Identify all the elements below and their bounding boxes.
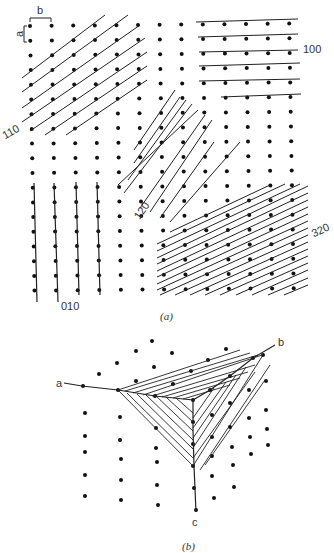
lattice-point	[73, 141, 77, 145]
lattice-point	[116, 141, 120, 145]
lattice-point	[134, 379, 138, 383]
lattice-point	[223, 66, 227, 70]
plane-label-110: 110	[0, 122, 21, 141]
lattice-point	[180, 67, 184, 71]
lattice-point	[210, 474, 214, 478]
lattice-point	[30, 156, 34, 160]
lattice-point	[180, 96, 184, 100]
lattice-point	[137, 52, 141, 56]
lattice-point	[247, 388, 251, 392]
lattice-point	[28, 39, 32, 43]
lattice-point	[289, 125, 293, 129]
plane-label-120: 120	[131, 200, 151, 222]
lattice-point	[180, 52, 184, 56]
plane-label-320: 320	[310, 221, 332, 240]
lattice-point	[159, 96, 163, 100]
lattice-point	[119, 478, 123, 482]
crystal-lattice-diagram: b a 110 100	[0, 0, 334, 553]
lattice-point	[83, 434, 87, 438]
lattice-point	[140, 273, 144, 277]
lattice-point	[268, 169, 272, 173]
figure-a: b a 110 100	[0, 4, 331, 323]
lattice-point	[117, 185, 121, 189]
lattice-point	[118, 244, 122, 248]
lattice-point	[155, 483, 159, 487]
lattice-point	[289, 139, 293, 143]
lattice-point	[201, 37, 205, 41]
lattice-point	[231, 463, 235, 467]
lattice-point	[161, 243, 165, 247]
lattice-point	[115, 361, 119, 365]
lattice-point	[52, 141, 56, 145]
lattice-point	[223, 37, 227, 41]
lattice-point	[223, 81, 227, 85]
lattice-point	[264, 408, 268, 412]
lattice-point	[244, 22, 248, 26]
lattice-point	[288, 95, 292, 99]
lattice-point	[267, 95, 271, 99]
lattice-point	[119, 498, 123, 502]
lattice-point	[162, 287, 166, 291]
lattice-point	[204, 199, 208, 203]
lattice-point	[265, 427, 269, 431]
lattice-point	[268, 154, 272, 158]
lattice-point	[267, 125, 271, 129]
planes-320	[157, 184, 308, 295]
lattice-point	[248, 435, 252, 439]
lattice-point	[95, 141, 99, 145]
lattice-point	[266, 37, 270, 41]
lattice-point	[83, 411, 87, 415]
lattice-point	[212, 496, 216, 500]
planes-010	[34, 182, 100, 302]
lattice-point	[160, 155, 164, 159]
lattice-point	[180, 81, 184, 85]
lattice-point	[118, 415, 122, 419]
lattice-point	[267, 81, 271, 85]
lattice-point	[117, 200, 121, 204]
lattice-point	[224, 347, 228, 351]
lattice-point	[292, 286, 296, 290]
lattice-point	[182, 214, 186, 218]
lattice-point	[248, 243, 252, 247]
plane-label-010: 010	[61, 300, 79, 312]
lattice-point	[159, 82, 163, 86]
lattice-point	[119, 457, 123, 461]
lattice-point	[182, 170, 186, 174]
lattice-point	[246, 110, 250, 114]
lattice-point	[288, 80, 292, 84]
axis-c-label: c	[192, 516, 198, 528]
lattice-point	[158, 23, 162, 27]
lattice-point	[224, 110, 228, 114]
lattice-point	[222, 22, 226, 26]
lattice-point	[158, 67, 162, 71]
figure-b: a b c	[56, 336, 284, 553]
lattice-point	[291, 272, 295, 276]
lattice-point	[119, 288, 123, 292]
lattice-point	[155, 460, 159, 464]
hatch-ac-face	[118, 390, 193, 466]
lattice-point	[203, 140, 207, 144]
lattice-point	[289, 154, 293, 158]
lattice-point	[152, 365, 156, 369]
figure-a-caption: (a)	[160, 310, 173, 323]
lattice-point	[268, 139, 272, 143]
lattice-point	[245, 51, 249, 55]
lattice-point	[73, 156, 77, 160]
lattice-point	[75, 244, 79, 248]
lattice-point	[31, 171, 35, 175]
lattice-point	[266, 22, 270, 26]
lattice-point	[33, 289, 37, 293]
lattice-point	[138, 126, 142, 130]
lattice-point	[118, 214, 122, 218]
lattice-point	[150, 339, 154, 343]
unit-cell-marker	[24, 18, 51, 42]
unit-cell-b-label: b	[37, 4, 43, 16]
lattice-point	[139, 185, 143, 189]
lattice-point	[291, 257, 295, 261]
lattice-point	[202, 81, 206, 85]
lattice-point	[161, 229, 165, 233]
lattice-point	[170, 351, 174, 355]
lattice-point	[227, 272, 231, 276]
lattice-point	[245, 81, 249, 85]
lattice-point	[287, 36, 291, 40]
